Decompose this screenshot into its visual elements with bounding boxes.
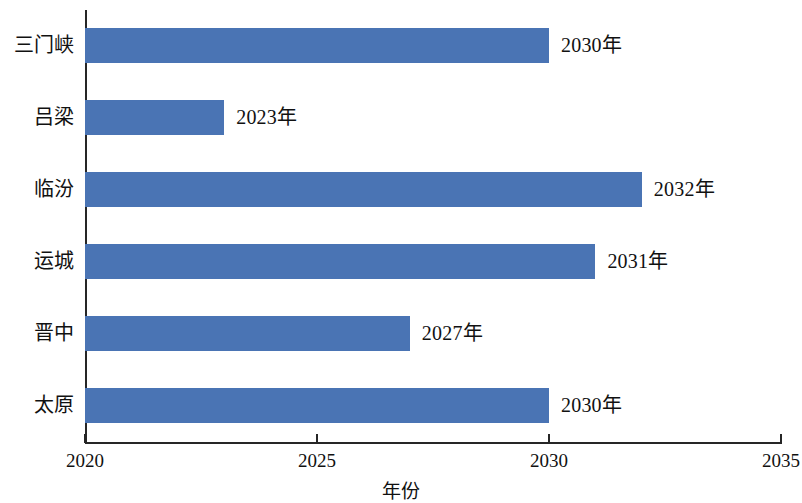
x-axis-tick-mark [84,434,86,443]
bar[interactable] [85,172,642,207]
bar-value-label: 2023年 [236,100,297,135]
x-axis-tick-label: 2035 [762,450,800,472]
bar-value-label: 2031年 [607,244,668,279]
bar[interactable] [85,28,549,63]
y-axis-category-label: 运城 [34,244,74,279]
y-axis-category-label: 太原 [34,388,74,423]
bar[interactable] [85,244,595,279]
bar[interactable] [85,100,224,135]
plot-area: 2030年2023年2032年2031年2027年2030年 [85,10,781,442]
bar-row: 2030年 [85,370,781,442]
bar-value-label: 2032年 [654,172,715,207]
x-axis-tick-label: 2030 [530,450,568,472]
bar-row: 2023年 [85,82,781,154]
bar-row: 2032年 [85,154,781,226]
x-axis-tick-mark [548,434,550,443]
y-axis-category-label: 临汾 [34,172,74,207]
x-axis-tick-label: 2025 [298,450,336,472]
bar-value-label: 2027年 [422,316,483,351]
bar[interactable] [85,388,549,423]
bar-chart: 2030年2023年2032年2031年2027年2030年 三门峡吕梁临汾运城… [0,0,802,503]
y-axis-category-label: 吕梁 [34,100,74,135]
x-axis-tick-label: 2020 [66,450,104,472]
x-axis-tick-mark [316,434,318,443]
x-axis-tick-mark [780,434,782,443]
bar-value-label: 2030年 [561,388,622,423]
bar-row: 2030年 [85,10,781,82]
bar-row: 2027年 [85,298,781,370]
bar-value-label: 2030年 [561,28,622,63]
bar-row: 2031年 [85,226,781,298]
y-axis-category-label: 晋中 [34,316,74,351]
x-axis-line [85,442,782,444]
x-axis-title: 年份 [0,476,802,503]
y-axis-category-label: 三门峡 [14,28,74,63]
bar[interactable] [85,316,410,351]
